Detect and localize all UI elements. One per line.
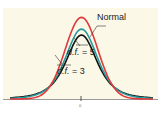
leader-df3 [55, 55, 62, 64]
chart-svg [0, 0, 161, 115]
curve-df5 [10, 29, 153, 98]
label-df3: d.f. = 3 [57, 67, 85, 76]
label-normal: Normal [97, 13, 126, 22]
x-tick-label-0: 0 [79, 103, 81, 108]
label-df5: d.f. = 5 [67, 48, 95, 57]
label-df5-prefix: d.f. [67, 47, 80, 57]
label-df3-suffix: = 3 [70, 66, 85, 76]
label-df3-prefix: d.f. [57, 66, 70, 76]
label-df5-suffix: = 5 [80, 47, 95, 57]
